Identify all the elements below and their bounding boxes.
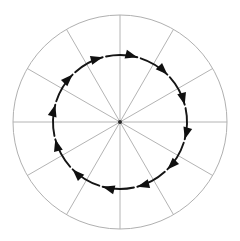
circular-rotation-diagram: Clockwise circulation around a central p…	[0, 0, 240, 241]
center-point-dot	[118, 120, 122, 124]
figure-root: Clockwise circulation around a central p…	[0, 0, 240, 241]
